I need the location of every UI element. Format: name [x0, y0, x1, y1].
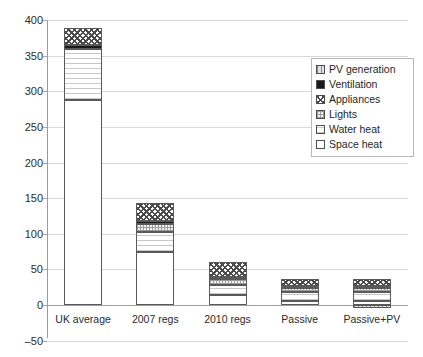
segment-appliances — [353, 279, 391, 287]
y-tick-label: 350 — [5, 50, 43, 62]
legend-swatch-icon — [316, 80, 325, 89]
segment-lights — [353, 288, 391, 292]
legend-item: Water heat — [316, 122, 409, 137]
y-tick-label: 400 — [5, 14, 43, 26]
legend-swatch-icon — [316, 65, 325, 74]
legend-swatch-icon — [316, 110, 325, 119]
segment-ventilation — [281, 286, 319, 288]
y-tick-label: 50 — [5, 263, 43, 275]
segment-appliances — [281, 279, 319, 287]
y-tick-label: 300 — [5, 85, 43, 97]
legend-swatch-icon — [316, 95, 325, 104]
segment-space-heat — [281, 301, 319, 305]
segment-ventilation — [353, 286, 391, 288]
segment-appliances — [136, 203, 174, 221]
legend-item: Lights — [316, 107, 409, 122]
segment-appliances — [209, 262, 247, 278]
legend-item: Ventilation — [316, 77, 409, 92]
x-tick-label: 2010 regs — [204, 313, 251, 325]
legend-label: Space heat — [329, 139, 382, 150]
legend-item: PV generation — [316, 62, 409, 77]
legend-item: Space heat — [316, 137, 409, 152]
segment-ventilation — [64, 45, 102, 49]
segment-space-heat — [64, 100, 102, 305]
segment-lights — [281, 288, 319, 292]
bar-2007-regs[interactable] — [136, 20, 174, 338]
segment-pv-generation — [353, 305, 391, 308]
legend-label: Appliances — [329, 94, 380, 105]
bar-uk-average[interactable] — [64, 20, 102, 338]
legend-swatch-icon — [316, 140, 325, 149]
segment-water-heat — [281, 292, 319, 301]
segment-lights — [209, 279, 247, 285]
legend-label: PV generation — [329, 64, 396, 75]
y-tick-mark — [43, 341, 47, 342]
segment-lights — [136, 224, 174, 231]
legend: PV generationVentilationAppliancesLights… — [311, 58, 414, 157]
segment-ventilation — [209, 277, 247, 279]
y-tick-label: 250 — [5, 121, 43, 133]
segment-ventilation — [136, 221, 174, 225]
segment-space-heat — [209, 295, 247, 305]
x-tick-label: 2007 regs — [132, 313, 179, 325]
y-tick-label: 150 — [5, 192, 43, 204]
legend-label: Water heat — [329, 124, 380, 135]
x-tick-label: UK average — [55, 313, 110, 325]
x-tick-label: Passive+PV — [343, 313, 400, 325]
bar-2010-regs[interactable] — [209, 20, 247, 338]
legend-label: Lights — [329, 109, 357, 120]
segment-appliances — [64, 28, 102, 45]
segment-space-heat — [136, 252, 174, 305]
y-tick-label: 0 — [5, 299, 43, 311]
y-tick-label: 200 — [5, 157, 43, 169]
legend-item: Appliances — [316, 92, 409, 107]
y-axis-labels: –50050100150200250300350400 — [0, 0, 43, 357]
gridline — [47, 341, 408, 342]
legend-label: Ventilation — [329, 79, 377, 90]
x-tick-label: Passive — [281, 313, 318, 325]
segment-water-heat — [209, 285, 247, 295]
segment-water-heat — [64, 49, 102, 100]
segment-water-heat — [136, 232, 174, 252]
y-tick-label: –50 — [5, 335, 43, 347]
stacked-bar-chart: –50050100150200250300350400 UK average20… — [0, 0, 423, 357]
legend-swatch-icon — [316, 125, 325, 134]
y-tick-label: 100 — [5, 228, 43, 240]
segment-water-heat — [353, 292, 391, 301]
